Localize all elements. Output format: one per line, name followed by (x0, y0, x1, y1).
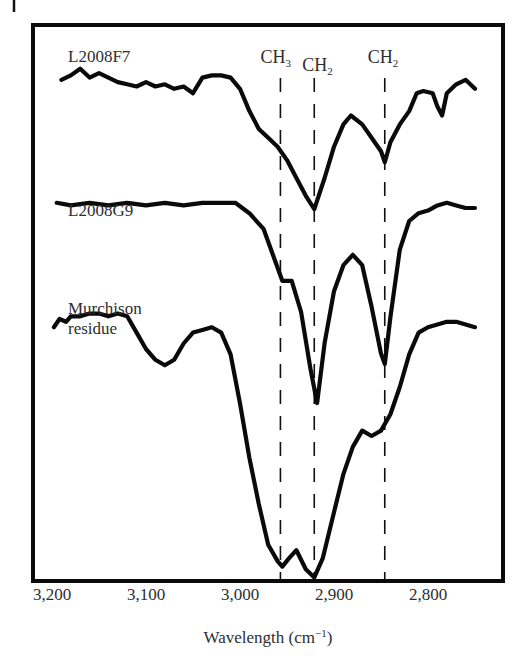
x-tick-label: 3,200 (33, 585, 71, 604)
x-axis-title: Wavelength (cm−1) (204, 627, 333, 647)
series-labels: L2008F7L2008G9Murchisonresidue (68, 47, 142, 338)
trace-murchison-residue (54, 314, 475, 578)
band-label-ch2: CH2 (368, 47, 399, 69)
ir-spectra-chart: CH3CH2CH2 L2008F7L2008G9Murchisonresidue… (0, 0, 530, 664)
series-label: residue (68, 319, 117, 338)
band-label-ch2: CH2 (302, 55, 333, 77)
x-tick-label: 3,100 (127, 585, 165, 604)
series-label: L2008G9 (68, 201, 133, 220)
x-tick-label: 2,900 (315, 585, 353, 604)
x-axis-tick-labels: 3,2003,1003,0002,9002,800 (33, 585, 447, 604)
band-labels: CH3CH2CH2 (260, 47, 398, 77)
chart-canvas: CH3CH2CH2 L2008F7L2008G9Murchisonresidue… (0, 0, 530, 664)
x-tick-label: 3,000 (221, 585, 259, 604)
series-label: L2008F7 (68, 47, 131, 66)
trace-l2008f7 (61, 69, 475, 210)
band-label-ch3: CH3 (260, 47, 291, 69)
x-tick-label: 2,800 (409, 585, 447, 604)
series-label: Murchison (68, 299, 142, 318)
